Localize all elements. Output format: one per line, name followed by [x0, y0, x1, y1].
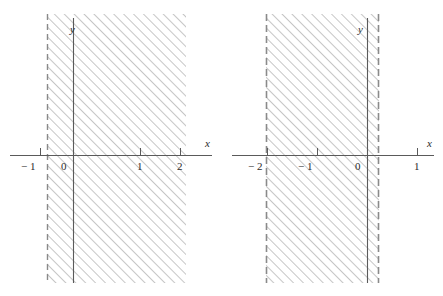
left-x-axis-label: x	[205, 138, 210, 149]
right-shaded-region	[266, 14, 379, 283]
right-x-axis-label: x	[427, 138, 432, 149]
right-y-axis-label: y	[358, 24, 363, 35]
math-figure: y x − 1 0 1 2 y x − 2 − 1 0 1	[0, 0, 443, 296]
right-tick-label-neg2: − 2	[248, 161, 262, 172]
left-tick-label-2: 2	[177, 161, 183, 172]
left-tick-label-neg1: − 1	[21, 161, 35, 172]
figure-canvas	[0, 0, 443, 296]
left-panel	[10, 14, 212, 283]
right-panel	[232, 14, 434, 283]
left-tick-label-1: 1	[137, 161, 143, 172]
right-tick-label-0: 0	[355, 161, 361, 172]
left-shaded-region	[47, 14, 186, 283]
right-tick-label-1: 1	[414, 161, 420, 172]
right-tick-label-neg1: − 1	[298, 161, 312, 172]
left-y-axis-label: y	[70, 24, 75, 35]
left-tick-label-0: 0	[61, 161, 67, 172]
